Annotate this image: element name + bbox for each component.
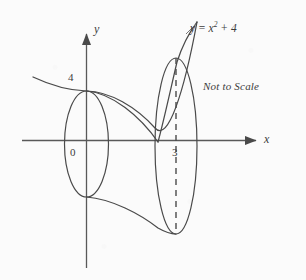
figure-container: y x 4 0 3 y = x2 + 4 Not to Scale	[0, 0, 306, 280]
origin-label: 0	[70, 147, 76, 158]
x-axis-label: x	[264, 133, 269, 145]
not-to-scale-note: Not to Scale	[203, 81, 259, 92]
parabola-upper-arm	[87, 91, 159, 142]
figure-drawing	[0, 0, 306, 280]
curve-equation-suffix: + 4	[217, 22, 236, 34]
parabola-curve	[33, 22, 197, 131]
y-axis-label: y	[94, 23, 99, 35]
curve-equation-prefix: y = x	[190, 22, 214, 34]
parabola-right-rise	[158, 22, 197, 142]
x-bound-label: 3	[172, 147, 178, 158]
y-intercept-label: 4	[68, 72, 74, 83]
curve-equation-label: y = x2 + 4	[190, 21, 237, 34]
